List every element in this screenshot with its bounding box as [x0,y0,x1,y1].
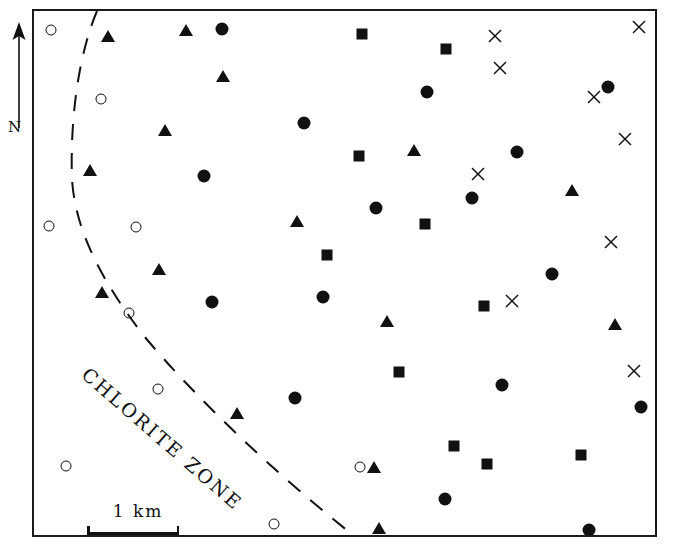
sample-marker-filled-triangle[interactable] [372,522,386,534]
sample-marker-filled-circle[interactable] [466,192,479,205]
sample-marker-filled-circle[interactable] [198,170,211,183]
sample-marker-filled-triangle[interactable] [367,461,381,473]
sample-marker-open-circle[interactable] [44,221,55,232]
map-page: N [0,0,675,557]
sample-marker-filled-circle[interactable] [370,202,383,215]
sample-marker-filled-circle[interactable] [421,86,434,99]
sample-marker-filled-square[interactable] [357,29,368,40]
north-arrow-icon [6,22,32,132]
sample-marker-filled-triangle[interactable] [152,263,166,275]
scale-bar-tick-right [177,526,180,535]
north-label: N [8,118,22,136]
sample-marker-filled-square[interactable] [479,301,490,312]
sample-marker-open-circle[interactable] [153,384,164,395]
sample-marker-filled-triangle[interactable] [158,124,172,136]
sample-marker-filled-triangle[interactable] [216,70,230,82]
scale-bar-line [87,532,179,535]
sample-marker-filled-circle[interactable] [546,268,559,281]
sample-marker-filled-triangle[interactable] [101,30,115,42]
sample-marker-filled-triangle[interactable] [230,407,244,419]
sample-marker-cross-icon[interactable] [505,294,520,309]
sample-marker-filled-circle[interactable] [511,146,524,159]
sample-marker-filled-triangle[interactable] [83,164,97,176]
sample-marker-filled-triangle[interactable] [608,318,622,330]
sample-marker-cross-icon[interactable] [604,235,619,250]
sample-marker-filled-circle[interactable] [206,296,219,309]
sample-marker-filled-circle[interactable] [602,81,615,94]
scale-bar-label: 1 km [81,501,191,521]
sample-marker-filled-square[interactable] [394,367,405,378]
sample-marker-open-circle[interactable] [124,308,135,319]
sample-marker-filled-square[interactable] [441,44,452,55]
sample-marker-open-circle[interactable] [96,94,107,105]
sample-marker-filled-circle[interactable] [496,379,509,392]
chlorite-zone-boundary-line [34,11,655,535]
sample-marker-filled-circle[interactable] [289,392,302,405]
sample-marker-filled-square[interactable] [482,459,493,470]
sample-marker-open-circle[interactable] [355,462,366,473]
sample-marker-filled-triangle[interactable] [290,215,304,227]
sample-marker-open-circle[interactable] [131,222,142,233]
sample-marker-filled-triangle[interactable] [407,144,421,156]
scale-bar-group: 1 km [81,501,191,535]
sample-marker-cross-icon[interactable] [632,20,647,35]
sample-marker-open-circle[interactable] [46,25,57,36]
plot-area: CHLORITE ZONE 1 km [34,11,655,535]
sample-marker-filled-triangle[interactable] [565,184,579,196]
sample-marker-cross-icon[interactable] [471,167,486,182]
sample-marker-filled-circle[interactable] [216,23,229,36]
map-frame: CHLORITE ZONE 1 km [32,9,657,537]
sample-marker-filled-triangle[interactable] [95,286,109,298]
sample-marker-cross-icon[interactable] [488,29,503,44]
sample-marker-filled-circle[interactable] [298,117,311,130]
sample-marker-filled-circle[interactable] [635,401,648,414]
scale-bar-graphic [87,526,179,535]
sample-marker-cross-icon[interactable] [627,364,642,379]
sample-marker-filled-triangle[interactable] [380,315,394,327]
sample-marker-open-circle[interactable] [61,461,72,472]
sample-marker-filled-square[interactable] [354,151,365,162]
sample-marker-filled-square[interactable] [576,450,587,461]
sample-marker-filled-circle[interactable] [317,291,330,304]
sample-marker-filled-circle[interactable] [439,493,452,506]
sample-marker-filled-square[interactable] [322,250,333,261]
sample-marker-cross-icon[interactable] [493,61,508,76]
sample-marker-open-circle[interactable] [269,519,280,530]
sample-marker-cross-icon[interactable] [587,90,602,105]
sample-marker-filled-circle[interactable] [583,524,596,536]
sample-marker-filled-triangle[interactable] [179,24,193,36]
sample-marker-filled-square[interactable] [420,219,431,230]
sample-marker-filled-square[interactable] [449,441,460,452]
sample-marker-cross-icon[interactable] [618,132,633,147]
